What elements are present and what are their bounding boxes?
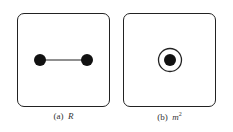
caption-a-symbol: R bbox=[68, 111, 74, 121]
dot-left bbox=[34, 54, 46, 66]
caption-b: (b) m2 bbox=[123, 111, 216, 122]
caption-b-superscript: 2 bbox=[179, 111, 182, 117]
caption-a: (a) R bbox=[17, 111, 110, 121]
dot-right bbox=[81, 54, 93, 66]
caption-a-prefix: (a) bbox=[54, 111, 64, 121]
caption-b-prefix: (b) bbox=[157, 112, 168, 122]
center-dot bbox=[164, 54, 176, 66]
